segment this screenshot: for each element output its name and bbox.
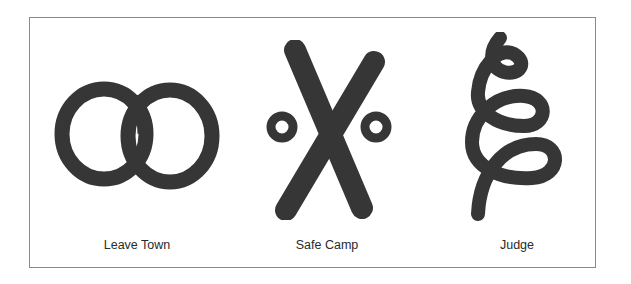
judge-label: Judge <box>500 238 534 252</box>
leave-town-label: Leave Town <box>104 238 171 252</box>
safe-camp-label: Safe Camp <box>296 238 359 252</box>
judge-symbol-icon <box>458 32 588 222</box>
safe-camp-symbol-icon <box>262 40 402 220</box>
leave-town-symbol-icon <box>52 76 224 194</box>
